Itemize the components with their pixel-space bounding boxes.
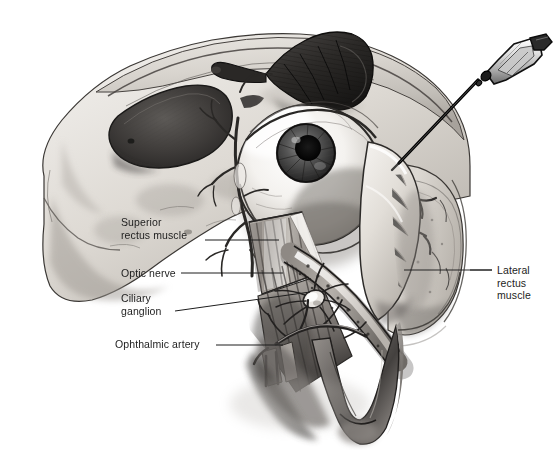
label-ciliary-ganglion: Ciliary ganglion [121,292,162,317]
anatomical-figure: Superior rectus muscle Optic nerve Cilia… [0,0,560,463]
label-lateral-rectus-muscle: Lateral rectus muscle [497,264,531,302]
label-ophthalmic-artery: Ophthalmic artery [115,338,200,351]
illustration-canvas [0,0,560,463]
iris [277,124,335,182]
label-superior-rectus-muscle: Superior rectus muscle [121,216,187,241]
label-optic-nerve: Optic nerve [121,267,176,280]
